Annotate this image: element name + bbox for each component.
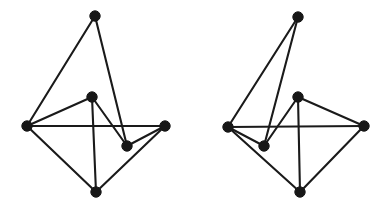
right-graph-edge-left-bottom <box>228 127 300 192</box>
right-graph-vertex-top <box>293 12 303 22</box>
right-graph-vertices <box>223 12 369 197</box>
left-graph-vertex-bottom <box>91 187 101 197</box>
left-graph-edges <box>27 16 165 192</box>
right-graph-vertex-mid-upper <box>293 92 303 102</box>
right-graph-vertex-right <box>359 121 369 131</box>
right-graph-edge-left-right <box>228 126 364 127</box>
right-graph-edges <box>228 17 364 192</box>
left-graph-edge-left-bottom <box>27 126 96 192</box>
left-graph-edge-top-left <box>27 16 95 126</box>
right-graph-edge-midupper-right-overlap <box>298 97 364 126</box>
graph-canvas <box>0 0 387 213</box>
edges-layer <box>27 16 364 192</box>
right-graph-edge-midupper-bottom <box>298 97 300 192</box>
left-graph-vertex-top <box>90 11 100 21</box>
graph-figure <box>0 0 387 213</box>
right-graph-edge-midupper-midlower <box>264 97 298 146</box>
left-graph-edge-right-bottom <box>96 126 165 192</box>
left-graph-vertex-mid-upper <box>87 92 97 102</box>
right-graph-vertex-mid-lower <box>259 141 269 151</box>
right-graph-vertex-left <box>223 122 233 132</box>
right-graph-edge-right-bottom <box>300 126 364 192</box>
right-graph-vertex-bottom <box>295 187 305 197</box>
left-graph-vertex-left <box>22 121 32 131</box>
left-graph-edge-midupper-bottom <box>92 97 96 192</box>
left-graph-vertex-right <box>160 121 170 131</box>
left-graph-vertex-mid-lower <box>122 141 132 151</box>
